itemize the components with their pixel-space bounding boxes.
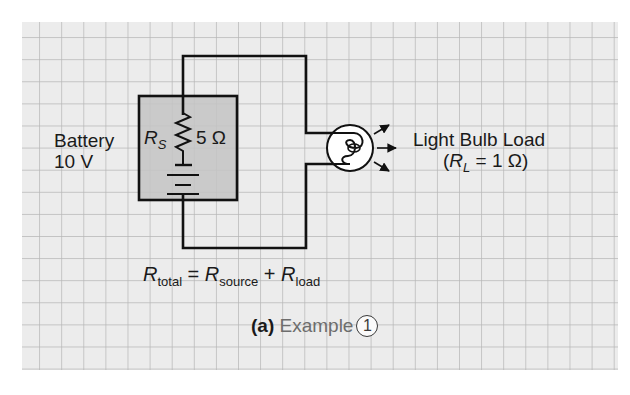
load-resistance-label: (RL = 1 Ω): [443, 151, 528, 170]
caption-part-label: (a): [251, 315, 274, 336]
eq-term1-subscript: source: [219, 274, 258, 289]
eq-lhs-symbol: R: [143, 263, 157, 285]
load-label-name: Light Bulb Load: [413, 129, 545, 150]
rl-subscript: L: [463, 160, 470, 175]
rl-symbol: R: [449, 150, 463, 171]
rs-subscript: S: [158, 137, 167, 152]
source-resistor-value: 5 Ω: [196, 128, 226, 147]
eq-lhs-subscript: total: [157, 274, 182, 289]
eq-term2-subscript: load: [296, 274, 321, 289]
eq-equals: =: [182, 263, 205, 285]
caption-title: Example: [280, 315, 354, 336]
example-number-badge: 1: [356, 315, 378, 337]
rs-symbol: R: [144, 127, 158, 148]
eq-plus: +: [258, 263, 281, 285]
source-resistor-label: RS: [144, 128, 166, 147]
eq-term1-symbol: R: [205, 263, 219, 285]
eq-term2-symbol: R: [281, 263, 295, 285]
resistance-equation: Rtotal = Rsource + Rload: [143, 264, 320, 284]
load-label: Light Bulb Load: [413, 130, 545, 149]
rs-value: 5 Ω: [196, 127, 226, 148]
battery-voltage-label: 10 V: [54, 152, 93, 171]
battery-label-name: Battery: [54, 130, 114, 151]
battery-voltage-value: 10 V: [54, 151, 93, 172]
figure-caption: (a) Example1: [251, 315, 378, 337]
rl-value: = 1 Ω): [470, 150, 528, 171]
battery-label: Battery: [54, 131, 114, 150]
